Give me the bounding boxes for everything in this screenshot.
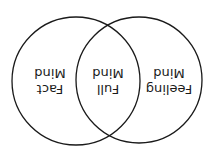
fact-mind-label-line2: Mind	[34, 66, 65, 81]
feeling-mind-label-line1: Feeling	[146, 82, 192, 97]
full-mind-label-line1: Full	[97, 82, 119, 97]
feeling-mind-label-line2: Mind	[153, 66, 184, 81]
full-mind-label-line2: Mind	[92, 66, 123, 81]
fact-mind-label-line1: Fact	[37, 82, 64, 97]
venn-diagram: Feeling Mind Full Mind Fact Mind	[0, 0, 214, 161]
